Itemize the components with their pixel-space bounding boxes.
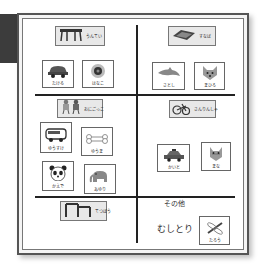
name-card: かえで: [42, 161, 74, 191]
activity-label-mushitori: むしとり: [157, 222, 193, 235]
header-card-sunaba: すなば: [168, 26, 216, 46]
header-label: すなば: [199, 33, 211, 39]
name-card: ゆうま: [81, 127, 113, 156]
header-label: さんりんしゃ: [194, 106, 218, 112]
name-card: ゆうすけ: [40, 122, 72, 153]
name-card: たろう: [199, 216, 230, 245]
card-label: たける: [52, 81, 64, 87]
name-card: あゆり: [84, 164, 116, 194]
name-card: まな: [201, 142, 231, 171]
taxi-icon: [162, 145, 186, 165]
flower-icon: [89, 61, 107, 81]
header-card-sanrinsha: さんりんしゃ: [169, 100, 216, 118]
grid-horizontal-line-1: [35, 94, 235, 96]
card-label: かいと: [168, 165, 180, 171]
name-card: かいと: [157, 144, 190, 172]
panda-icon: [49, 162, 67, 184]
header-label: てつぼう: [95, 208, 111, 214]
cat-icon: [208, 143, 224, 164]
grid-vertical-line: [136, 25, 138, 243]
header-label: うんてい: [86, 33, 102, 39]
card-label: まひろ: [204, 83, 216, 89]
header-card-unten: うんてい: [55, 26, 105, 46]
dragonfly-icon: [204, 217, 226, 238]
card-label: たろう: [209, 238, 221, 244]
card-label: まな: [212, 164, 220, 170]
dark-background-block: [0, 14, 18, 63]
name-card: さとし: [152, 62, 185, 90]
playground-bars-icon: [58, 26, 84, 46]
header-label: おにごっこ: [84, 106, 104, 112]
bus-icon: [44, 123, 68, 146]
bone-icon: [85, 128, 109, 149]
header-card-tetsubou: てつぼう: [60, 201, 107, 221]
card-label: ゆうすけ: [48, 146, 64, 152]
sandbox-icon: [171, 27, 197, 46]
fox-icon: [201, 63, 219, 83]
card-label: あゆり: [94, 187, 106, 193]
card-label: はなこ: [92, 81, 104, 87]
tag-game-icon: [60, 99, 82, 118]
card-label: さとし: [163, 83, 175, 89]
name-card: たける: [42, 60, 74, 88]
section-title-other: その他: [164, 198, 185, 208]
iron-bar-icon: [63, 201, 93, 221]
header-card-onigokko: おにごっこ: [57, 99, 103, 118]
name-card: まひろ: [194, 62, 225, 90]
tricycle-icon: [172, 100, 192, 119]
name-card: はなこ: [82, 60, 114, 88]
card-label: かえで: [52, 184, 64, 190]
grid-horizontal-line-2: [35, 196, 235, 198]
card-label: ゆうま: [91, 149, 103, 155]
dolphin-icon: [156, 63, 182, 83]
elephant-icon: [89, 165, 111, 187]
car-icon: [46, 61, 70, 81]
